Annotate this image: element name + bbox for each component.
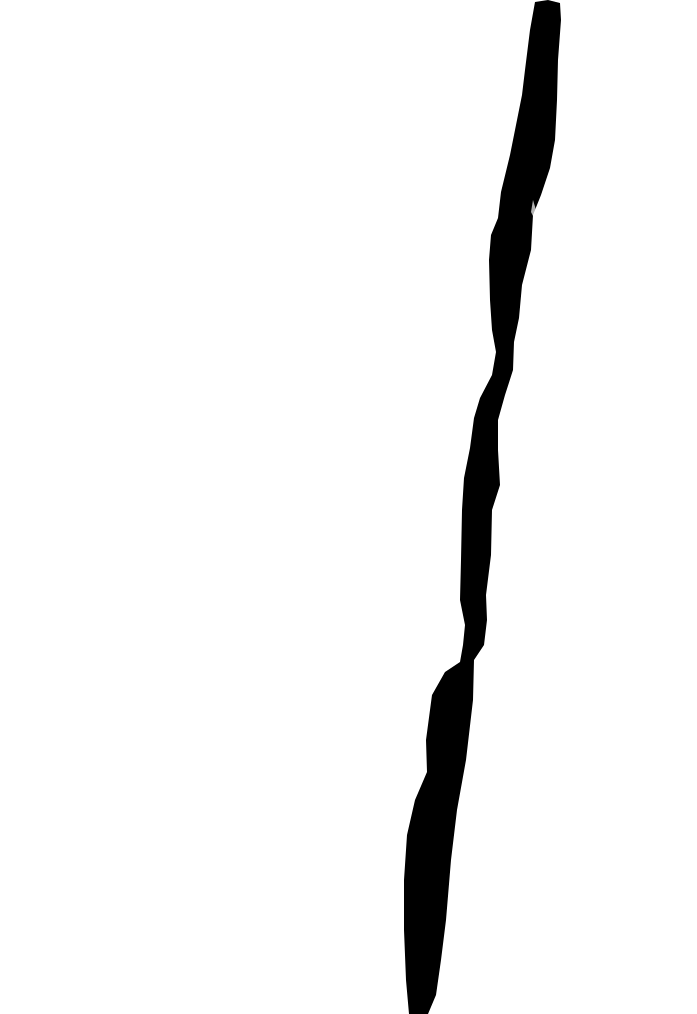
brush-stroke-canvas — [0, 0, 697, 1014]
brush-stroke — [404, 0, 561, 1014]
